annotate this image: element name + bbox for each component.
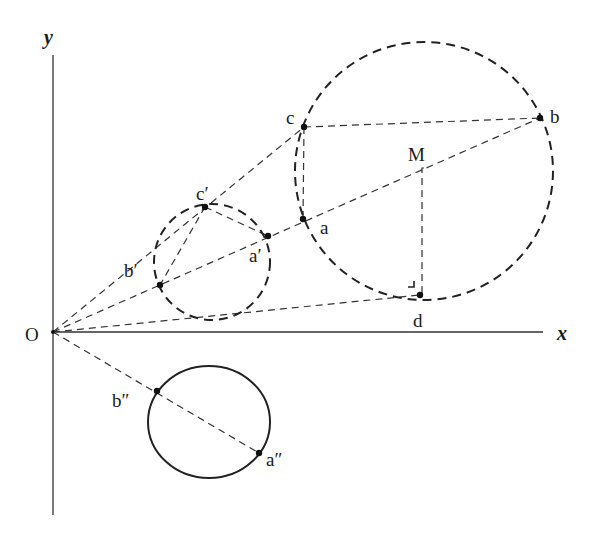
point-a-prime: [265, 233, 271, 239]
label-b-dprime: b″: [112, 390, 129, 411]
label-a-dprime: a″: [266, 449, 282, 470]
label-c-prime: c′: [196, 183, 209, 204]
right-angle-mark: [408, 281, 414, 287]
label-d: d: [413, 310, 423, 331]
point-b-prime: [157, 282, 163, 288]
segment-c-prime-b-prime: [160, 207, 205, 285]
ray-o-c: [53, 127, 304, 332]
label-a-prime: a′: [249, 245, 262, 266]
segment-c-b: [304, 118, 540, 127]
point-b: [537, 115, 543, 121]
label-b: b: [550, 106, 560, 127]
large-circle: [295, 42, 553, 300]
y-axis-label: y: [42, 26, 53, 49]
point-c-prime: [202, 204, 208, 210]
diagram-canvas: y x O c b a d M c′ a′ b′ b″ a″: [0, 0, 596, 542]
segment-c-a: [303, 127, 304, 219]
lower-circle: [148, 366, 270, 478]
origin-label: O: [25, 324, 39, 345]
point-c: [301, 124, 307, 130]
x-axis-label: x: [556, 322, 567, 344]
point-a-dprime: [256, 450, 262, 456]
point-origin: [51, 330, 55, 334]
point-b-dprime: [154, 388, 160, 394]
point-d: [417, 292, 423, 298]
label-c: c: [286, 107, 294, 128]
label-a: a: [320, 217, 329, 238]
point-a: [300, 216, 306, 222]
segment-c-prime-a-prime: [205, 207, 268, 236]
label-m: M: [408, 144, 425, 165]
label-b-prime: b′: [124, 260, 138, 281]
segment-m-d: [422, 168, 424, 295]
